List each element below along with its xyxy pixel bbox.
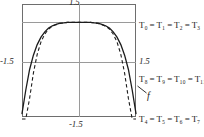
- series-label-group-bottom: T₄ = T₅ = T₆ = T₇: [139, 114, 200, 124]
- series-label-group-middle: T₈ = T₉ = T₁₀ = T₁₁: [139, 74, 204, 84]
- taylor-polynomial-figure: 1.5 -1.5 1.5 -1.5 T₀ = T₁ = T₂ = T₃ T₈ =…: [0, 0, 204, 137]
- axis-label-y-top: 1.5: [69, 0, 80, 7]
- series-label-group-top: T₀ = T₁ = T₂ = T₃: [139, 20, 200, 30]
- leader-line-f: [138, 86, 147, 93]
- axis-label-x-bottom: -1.5: [69, 119, 82, 129]
- axis-label-y-left: -1.5: [0, 56, 13, 66]
- curve-taylor-solid: [22, 22, 136, 113]
- function-label-f: f: [147, 90, 150, 101]
- axis-label-x-right: 1.5: [139, 56, 150, 66]
- curve-f-dashed: [22, 22, 136, 119]
